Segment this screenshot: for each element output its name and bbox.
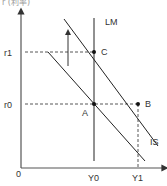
r0-tick-label: r0 [4, 100, 12, 110]
is-lm-diagram: r (利率) LM IS C A B r1 r0 Y0 Y1 0 [0, 0, 167, 186]
point-b-label: B [145, 99, 151, 109]
point-c-label: C [101, 47, 108, 57]
point-b-marker [136, 102, 140, 106]
is-curve-shifted [64, 19, 158, 146]
origin-label: 0 [16, 169, 21, 179]
point-a-marker [92, 102, 96, 106]
y0-tick-label: Y0 [88, 173, 99, 183]
r1-tick-label: r1 [4, 48, 12, 58]
point-a-label: A [82, 108, 88, 118]
lm-label: LM [105, 17, 118, 27]
y1-tick-label: Y1 [132, 173, 143, 183]
cutoff-header-text: r (利率) [2, 0, 30, 7]
is-label: IS [150, 137, 159, 147]
point-c-marker [92, 50, 96, 54]
is-curve-original [48, 52, 145, 161]
